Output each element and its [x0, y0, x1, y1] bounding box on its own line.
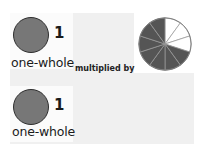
fraction-pie-icon [137, 16, 193, 72]
whole-circle-icon [13, 17, 49, 53]
operand-a-label: one-whole [11, 55, 74, 70]
operator-label: multiplied by [75, 64, 134, 73]
operand-a-number: 1 [54, 24, 64, 42]
result-label: one-whole [12, 124, 75, 139]
result-number: 1 [54, 96, 64, 114]
result-circle-icon [13, 89, 49, 125]
